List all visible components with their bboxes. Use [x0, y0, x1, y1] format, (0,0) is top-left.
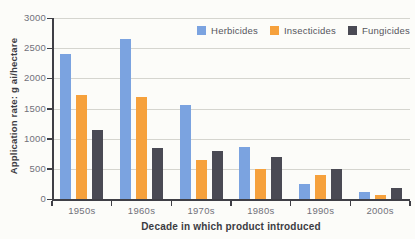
y-tick-label-500: 500 — [12, 164, 46, 174]
x-axis-title: Decade in which product introduced — [52, 221, 410, 232]
y-tick-mark-1000 — [47, 138, 52, 140]
bar-fungicides-1980s — [271, 157, 282, 199]
x-tick-mark-1 — [111, 201, 113, 206]
gridline-500 — [52, 169, 410, 170]
bar-insecticides-1990s — [315, 175, 326, 199]
x-tick-mark-3 — [230, 201, 232, 206]
bar-herbicides-1970s — [180, 105, 191, 199]
y-tick-label-2000: 2000 — [12, 73, 46, 83]
bar-herbicides-2000s — [359, 192, 370, 199]
x-category-label-1990s: 1990s — [291, 205, 351, 216]
gridline-2500 — [52, 48, 410, 49]
y-tick-label-2500: 2500 — [12, 43, 46, 53]
plot-area — [52, 18, 410, 199]
y-tick-label-1500: 1500 — [12, 104, 46, 114]
x-tick-mark-2 — [171, 201, 173, 206]
y-tick-mark-1500 — [47, 108, 52, 110]
legend: HerbicidesInsecticidesFungicides — [197, 25, 410, 36]
legend-label-herbicides: Herbicides — [211, 25, 258, 36]
legend-item-insecticides: Insecticides — [270, 25, 336, 36]
legend-label-fungicides: Fungicides — [362, 25, 410, 36]
gridline-1000 — [52, 139, 410, 140]
legend-label-insecticides: Insecticides — [284, 25, 336, 36]
x-tick-mark-6 — [409, 201, 411, 206]
y-tick-mark-0 — [47, 199, 52, 201]
y-tick-mark-500 — [47, 168, 52, 170]
bar-fungicides-1950s — [92, 130, 103, 199]
y-tick-mark-2500 — [47, 48, 52, 50]
y-tick-mark-2000 — [47, 78, 52, 80]
y-tick-mark-3000 — [47, 18, 52, 20]
bar-fungicides-1970s — [212, 151, 223, 199]
y-tick-label-3000: 3000 — [12, 13, 46, 23]
y-tick-label-0: 0 — [12, 194, 46, 204]
gridline-1500 — [52, 109, 410, 110]
bar-insecticides-1960s — [136, 97, 147, 199]
y-tick-label-1000: 1000 — [12, 134, 46, 144]
bar-herbicides-1960s — [120, 39, 131, 199]
x-category-label-1950s: 1950s — [52, 205, 112, 216]
bar-chart: Application rate: g ai/hectare Herbicide… — [0, 0, 415, 239]
bar-herbicides-1980s — [239, 147, 250, 199]
x-category-label-1970s: 1970s — [171, 205, 231, 216]
legend-swatch-fungicides-icon — [348, 26, 357, 35]
bar-fungicides-1990s — [331, 169, 342, 199]
bar-insecticides-1980s — [255, 169, 266, 199]
gridline-2000 — [52, 78, 410, 79]
x-tick-mark-4 — [290, 201, 292, 206]
bar-fungicides-2000s — [391, 188, 402, 199]
x-tick-mark-5 — [350, 201, 352, 206]
x-category-label-2000s: 2000s — [350, 205, 410, 216]
bar-insecticides-1950s — [76, 95, 87, 199]
legend-item-fungicides: Fungicides — [348, 25, 410, 36]
bar-fungicides-1960s — [152, 148, 163, 199]
legend-item-herbicides: Herbicides — [197, 25, 258, 36]
y-axis-line — [52, 18, 54, 200]
bar-herbicides-1990s — [299, 184, 310, 199]
x-tick-mark-0 — [51, 201, 53, 206]
x-category-label-1980s: 1980s — [231, 205, 291, 216]
legend-swatch-herbicides-icon — [197, 26, 206, 35]
x-category-label-1960s: 1960s — [112, 205, 172, 216]
bar-insecticides-1970s — [196, 160, 207, 199]
bar-herbicides-1950s — [60, 54, 71, 199]
legend-swatch-insecticides-icon — [270, 26, 279, 35]
gridline-3000 — [52, 18, 410, 19]
